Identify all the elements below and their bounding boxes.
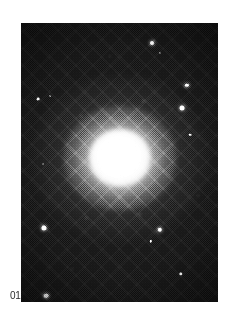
astronomical-photograph [21, 23, 218, 302]
figure-caption-number: 01 [10, 289, 21, 302]
plate-vignette [21, 23, 218, 302]
figure-plate: 01 [0, 0, 238, 321]
